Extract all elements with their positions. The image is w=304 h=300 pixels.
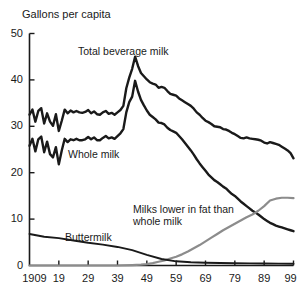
y-axis-tick-label: 0 xyxy=(3,260,23,271)
x-axis-tick-label: 89 xyxy=(255,273,273,284)
x-axis-tick-label: 1909 xyxy=(20,273,50,284)
x-axis-tick-label: 29 xyxy=(79,273,97,284)
whole-milk-label: Whole milk xyxy=(68,148,119,160)
y-axis-tick-label: 30 xyxy=(3,120,23,131)
x-axis-tick-label: 39 xyxy=(109,273,127,284)
total-beverage-milk-label: Total beverage milk xyxy=(78,45,168,57)
y-axis-tick-label: 10 xyxy=(3,213,23,224)
chart-figure: Gallons per capita 50403020100 190919293… xyxy=(0,0,304,300)
x-axis-tick-label: 69 xyxy=(197,273,215,284)
y-axis-tick-label: 20 xyxy=(3,167,23,178)
milks-lower-in-fat-label: Milks lower in fat than whole milk xyxy=(133,203,243,227)
x-axis-tick-label: 19 xyxy=(50,273,68,284)
y-axis-tick-label: 40 xyxy=(3,74,23,85)
x-axis-tick-label: 99 xyxy=(282,273,300,284)
buttermilk-label: Buttermilk xyxy=(65,231,112,243)
y-axis-tick-label: 50 xyxy=(3,28,23,39)
x-axis-tick-label: 59 xyxy=(167,273,185,284)
x-axis-tick-label: 79 xyxy=(226,273,244,284)
series-line xyxy=(30,57,294,159)
x-axis-tick-label: 49 xyxy=(138,273,156,284)
